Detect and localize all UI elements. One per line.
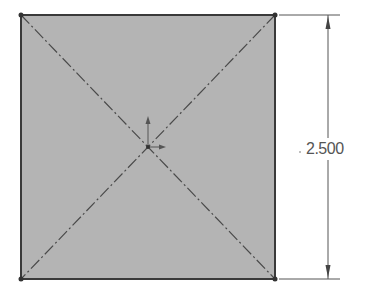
dimension-marker-dot	[299, 151, 301, 153]
corner-point-top-left[interactable]	[19, 13, 24, 18]
corner-point-bottom-right[interactable]	[273, 277, 278, 282]
dimension-arrow-bottom-icon	[326, 265, 331, 278]
dimension-arrow-top-icon	[326, 16, 331, 29]
corner-point-top-right[interactable]	[273, 13, 278, 18]
corner-point-bottom-left[interactable]	[19, 277, 24, 282]
dimension-value[interactable]: 2.500	[306, 140, 344, 158]
